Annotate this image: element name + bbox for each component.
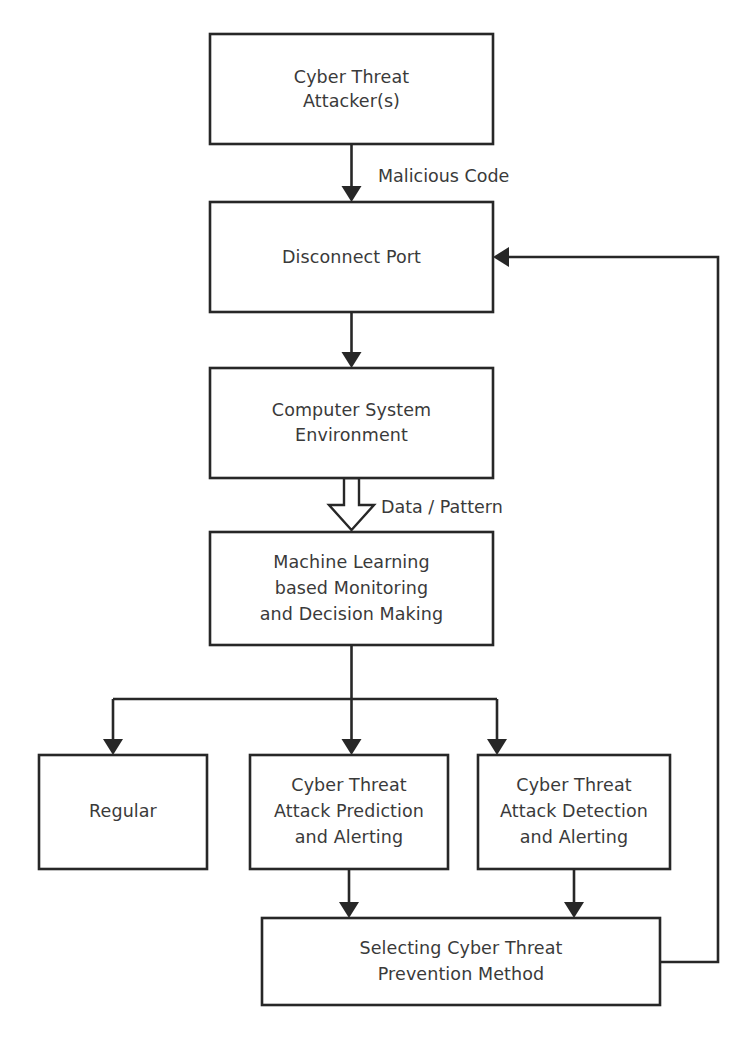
node-label-line-1: Cyber Threat: [291, 775, 406, 795]
node-label-line-3: and Alerting: [520, 827, 628, 847]
node-selecting-prevention-method[interactable]: Selecting Cyber Threat Prevention Method: [262, 918, 660, 1005]
node-regular[interactable]: Regular: [39, 755, 207, 869]
edge-attacker-to-disconnect-port: [342, 144, 362, 202]
arrowhead-down-icon: [342, 186, 362, 202]
arrowhead-down-icon: [103, 739, 123, 755]
node-label-line-2: Prevention Method: [378, 964, 544, 984]
arrowhead-down-icon: [487, 739, 507, 755]
caption-strip: [0, 1031, 751, 1043]
arrowhead-down-icon: [342, 352, 362, 368]
node-label-line-1: Machine Learning: [273, 552, 429, 572]
node-label-line-2: Attacker(s): [303, 91, 400, 111]
node-box[interactable]: [210, 368, 493, 478]
flowchart-diagram: Malicious Code Data / Pattern Cyber Thre…: [0, 0, 751, 1043]
node-box[interactable]: [210, 34, 493, 144]
node-cyber-threat-attacker[interactable]: Cyber Threat Attacker(s): [210, 34, 493, 144]
node-cyber-threat-attack-prediction[interactable]: Cyber Threat Attack Prediction and Alert…: [250, 755, 448, 869]
arrowhead-down-icon: [342, 739, 362, 755]
node-label-line-1: Disconnect Port: [282, 247, 421, 267]
node-machine-learning-monitoring[interactable]: Machine Learning based Monitoring and De…: [210, 532, 493, 645]
node-label-line-1: Cyber Threat: [516, 775, 631, 795]
node-label-line-1: Selecting Cyber Threat: [360, 938, 563, 958]
node-computer-system-environment[interactable]: Computer System Environment: [210, 368, 493, 478]
edge-disconnect-port-to-environment: [342, 312, 362, 368]
block-arrow-down-icon: [329, 478, 374, 530]
node-label-line-3: and Decision Making: [260, 604, 443, 624]
node-box[interactable]: [262, 918, 660, 1005]
edge-detection-to-prevention: [564, 869, 584, 918]
node-label-line-2: Attack Detection: [500, 801, 648, 821]
node-label-line-1: Cyber Threat: [294, 67, 409, 87]
edge-machine-learning-split: [103, 645, 507, 755]
arrowhead-down-icon: [564, 902, 584, 918]
edge-label-malicious-code: Malicious Code: [378, 166, 509, 186]
edge-environment-to-machine-learning: [329, 478, 374, 530]
arrowhead-down-icon: [339, 902, 359, 918]
arrowhead-left-icon: [493, 247, 509, 267]
edge-prediction-to-prevention: [339, 869, 359, 918]
node-label-line-1: Regular: [89, 801, 158, 821]
flowchart-canvas: Malicious Code Data / Pattern Cyber Thre…: [0, 0, 751, 1043]
node-label-line-2: Attack Prediction: [274, 801, 424, 821]
node-cyber-threat-attack-detection[interactable]: Cyber Threat Attack Detection and Alerti…: [478, 755, 670, 869]
node-disconnect-port[interactable]: Disconnect Port: [210, 202, 493, 312]
node-label-line-1: Computer System: [272, 400, 431, 420]
node-label-line-3: and Alerting: [295, 827, 403, 847]
edge-label-data-pattern: Data / Pattern: [381, 497, 503, 517]
node-label-line-2: based Monitoring: [275, 578, 429, 598]
node-label-line-2: Environment: [295, 425, 408, 445]
